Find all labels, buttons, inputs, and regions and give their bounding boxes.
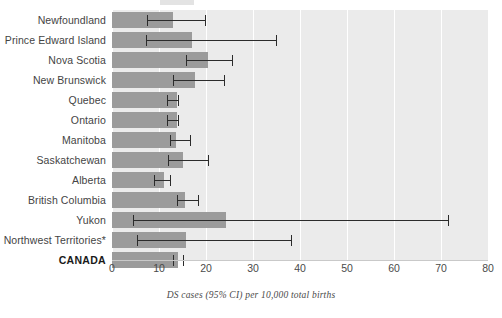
error-bar-cap-low: [147, 15, 148, 26]
top-cropped-text-artifact: [160, 0, 194, 5]
bar: [112, 192, 185, 208]
x-tick-label-20: 20: [186, 262, 226, 274]
category-label: British Columbia: [0, 190, 106, 210]
category-label: Prince Edward Island: [0, 30, 106, 50]
bar-rows-group: NewfoundlandPrince Edward IslandNova Sco…: [0, 10, 502, 270]
category-label: Newfoundland: [0, 10, 106, 30]
chart-row: Newfoundland: [0, 10, 502, 30]
error-bar-cap-high: [198, 195, 199, 206]
error-bar-line: [146, 40, 276, 41]
bar-track: [112, 130, 488, 150]
error-bar-cap-high: [208, 155, 209, 166]
error-bar-cap-low: [168, 155, 169, 166]
error-bar-cap-low: [133, 215, 134, 226]
x-axis-tick-labels: 01020304050607080: [0, 262, 502, 278]
chart-row: British Columbia: [0, 190, 502, 210]
error-bar-line: [170, 140, 190, 141]
x-tick-label-10: 10: [139, 262, 179, 274]
chart-row: Prince Edward Island: [0, 30, 502, 50]
error-bar-cap-high: [232, 55, 233, 66]
bar-track: [112, 30, 488, 50]
x-tick-label-70: 70: [421, 262, 461, 274]
error-bar-cap-low: [186, 55, 187, 66]
error-bar-line: [154, 180, 170, 181]
category-label: Yukon: [0, 210, 106, 230]
bar-track: [112, 10, 488, 30]
bar-track: [112, 210, 488, 230]
error-bar-cap-low: [173, 75, 174, 86]
x-tick-label-40: 40: [280, 262, 320, 274]
error-bar-cap-low: [167, 95, 168, 106]
category-label: Saskatchewan: [0, 150, 106, 170]
chart-row: Ontario: [0, 110, 502, 130]
chart-caption: DS cases (95% CI) per 10,000 total birth…: [0, 290, 502, 300]
bar-track: [112, 150, 488, 170]
error-bar-cap-low: [146, 35, 147, 46]
error-bar-cap-high: [448, 215, 449, 226]
error-bar-cap-high: [205, 15, 206, 26]
error-bar-line: [147, 20, 205, 21]
error-bar-cap-high: [224, 75, 225, 86]
bar-track: [112, 170, 488, 190]
chart-row: Saskatchewan: [0, 150, 502, 170]
category-label: Nova Scotia: [0, 50, 106, 70]
error-bar-line: [167, 100, 178, 101]
bar-track: [112, 230, 488, 250]
error-bar-cap-low: [154, 175, 155, 186]
chart-row: Nova Scotia: [0, 50, 502, 70]
category-label: New Brunswick: [0, 70, 106, 90]
x-axis-line: [112, 260, 488, 261]
category-label: Quebec: [0, 90, 106, 110]
error-bar-cap-high: [178, 95, 179, 106]
chart-row: Quebec: [0, 90, 502, 110]
error-bar-cap-low: [170, 135, 171, 146]
category-label: Ontario: [0, 110, 106, 130]
bar-track: [112, 50, 488, 70]
x-tick-label-30: 30: [233, 262, 273, 274]
error-bar-cap-high: [276, 35, 277, 46]
error-bar-cap-high: [178, 115, 179, 126]
category-label: Alberta: [0, 170, 106, 190]
category-label: Manitoba: [0, 130, 106, 150]
error-bar-cap-high: [291, 235, 292, 246]
error-bar-line: [173, 80, 224, 81]
chart-row: Northwest Territories*: [0, 230, 502, 250]
x-tick-label-60: 60: [374, 262, 414, 274]
x-tick-label-0: 0: [92, 262, 132, 274]
chart-row: New Brunswick: [0, 70, 502, 90]
chart-figure: NewfoundlandPrince Edward IslandNova Sco…: [0, 0, 502, 318]
error-bar-cap-low: [137, 235, 138, 246]
error-bar-line: [133, 220, 447, 221]
error-bar-cap-high: [170, 175, 171, 186]
category-label: Northwest Territories*: [0, 230, 106, 250]
error-bar-cap-low: [167, 115, 168, 126]
error-bar-cap-low: [177, 195, 178, 206]
chart-row: Manitoba: [0, 130, 502, 150]
bar-track: [112, 110, 488, 130]
bar-track: [112, 190, 488, 210]
bar: [112, 132, 176, 148]
bar-track: [112, 90, 488, 110]
error-bar-line: [167, 120, 178, 121]
error-bar-line: [137, 240, 291, 241]
error-bar-line: [177, 200, 198, 201]
x-tick-label-50: 50: [327, 262, 367, 274]
x-tick-label-80: 80: [468, 262, 502, 274]
error-bar-cap-high: [190, 135, 191, 146]
bar-track: [112, 70, 488, 90]
error-bar-line: [186, 60, 232, 61]
chart-row: Yukon: [0, 210, 502, 230]
error-bar-line: [168, 160, 207, 161]
chart-row: Alberta: [0, 170, 502, 190]
